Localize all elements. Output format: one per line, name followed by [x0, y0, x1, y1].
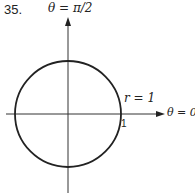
theta-zero-label: θ = 0: [167, 106, 195, 119]
horizontal-axis-arrowhead: [156, 111, 165, 117]
unit-tick-label: 1: [121, 118, 127, 129]
vertical-axis-arrowhead: [65, 17, 71, 26]
theta-pi-over-2-label: θ = π/2: [48, 1, 92, 15]
r-equals-one-label: r = 1: [124, 91, 155, 105]
polar-diagram: [0, 0, 195, 193]
